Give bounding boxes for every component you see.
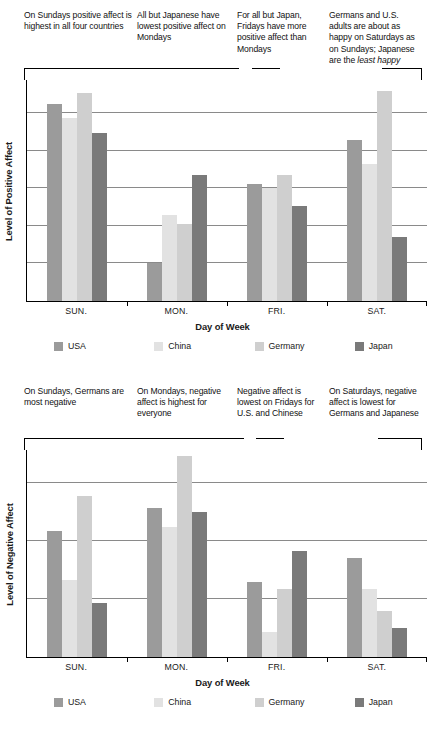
annotation-3: Negative affect is lowest on Fridays for…	[237, 386, 329, 438]
annotation-1: On Sundays, Germans are most negative	[24, 386, 137, 438]
legend-label: China	[168, 697, 191, 707]
leader-line-2	[139, 68, 239, 69]
x-tick-labels-positive: SUN. MON. FRI. SAT.	[26, 306, 427, 316]
bar-group-sat	[327, 450, 427, 657]
legend-label: Japan	[369, 697, 393, 707]
legend-label: Germany	[269, 341, 305, 351]
annotation-1: On Sundays positive affect is highest in…	[24, 10, 137, 68]
legend-label: Germany	[269, 697, 305, 707]
legend-negative: USA China Germany Japan	[26, 697, 427, 707]
legend-positive: USA China Germany Japan	[26, 341, 427, 351]
bar-group-mon	[127, 80, 227, 301]
bar-group-sun	[27, 450, 127, 657]
legend-item-germany: Germany	[227, 341, 327, 351]
positive-affect-figure: On Sundays positive affect is highest in…	[0, 0, 445, 360]
leader-line-2	[139, 438, 244, 439]
x-tick-label: SAT.	[327, 662, 427, 672]
bar-china	[362, 589, 377, 657]
bar-japan	[92, 603, 107, 657]
x-tick-label: FRI.	[227, 306, 327, 316]
bar-usa	[47, 531, 62, 657]
leader-line-1	[24, 68, 139, 69]
leader-line-4-drop	[421, 68, 422, 80]
legend-item-china: China	[126, 341, 226, 351]
bar-group-sat	[327, 80, 427, 301]
bar-usa	[247, 184, 262, 301]
bar-china	[162, 527, 177, 657]
bar-germany	[377, 611, 392, 657]
positive-affect-plot: Level of Positive Affect	[0, 80, 445, 302]
leader-line-1-drop	[24, 68, 25, 80]
legend-label: USA	[68, 341, 86, 351]
bar-china	[162, 215, 177, 301]
y-axis-label-positive: Level of Positive Affect	[0, 80, 18, 302]
bar-japan	[392, 628, 407, 657]
bar-china	[62, 118, 77, 301]
legend-swatch-china	[154, 342, 163, 351]
x-tick-label: MON.	[126, 662, 226, 672]
figure-page: On Sundays positive affect is highest in…	[0, 0, 445, 731]
legend-swatch-germany	[255, 698, 264, 707]
x-tick-label: SUN.	[26, 662, 126, 672]
legend-label: Japan	[369, 341, 393, 351]
bar-usa	[147, 263, 162, 301]
legend-item-germany: Germany	[227, 697, 327, 707]
legend-item-japan: Japan	[327, 341, 427, 351]
bar-germany	[177, 456, 192, 657]
bar-groups-negative	[27, 450, 427, 657]
bar-germany	[177, 224, 192, 301]
annotation-3: For all but Japan, Fridays have more pos…	[237, 10, 329, 68]
legend-item-usa: USA	[26, 341, 126, 351]
annotation-4-italic: least happy	[357, 55, 400, 65]
plot-axes-negative	[26, 450, 427, 658]
bar-germany	[277, 589, 292, 657]
legend-item-china: China	[126, 697, 226, 707]
legend-item-usa: USA	[26, 697, 126, 707]
bar-group-mon	[127, 450, 227, 657]
bar-china	[62, 580, 77, 657]
legend-swatch-china	[154, 698, 163, 707]
annotation-4: On Saturdays, negative affect is lowest …	[329, 386, 427, 438]
x-tick-label: SAT.	[327, 306, 427, 316]
x-tick-label: SUN.	[26, 306, 126, 316]
legend-label: China	[168, 341, 191, 351]
legend-swatch-germany	[255, 342, 264, 351]
annotation-2: On Mondays, negative affect is highest f…	[137, 386, 237, 438]
bar-china	[362, 164, 377, 301]
bar-group-fri	[227, 450, 327, 657]
annotation-row-2: On Sundays, Germans are most negative On…	[0, 386, 445, 438]
legend-label: USA	[68, 697, 86, 707]
x-tick-label: FRI.	[227, 662, 327, 672]
bar-germany	[377, 91, 392, 301]
leader-line-1	[24, 438, 139, 439]
x-axis-label-negative: Day of Week	[0, 677, 445, 688]
bar-japan	[192, 512, 207, 657]
bar-group-sun	[27, 80, 127, 301]
annotation-row-1: On Sundays positive affect is highest in…	[0, 10, 445, 68]
annotation-2: All but Japanese have lowest positive af…	[137, 10, 237, 68]
bar-china	[262, 632, 277, 657]
bar-japan	[292, 206, 307, 301]
x-tick-labels-negative: SUN. MON. FRI. SAT.	[26, 662, 427, 672]
negative-affect-figure: On Sundays, Germans are most negative On…	[0, 378, 445, 731]
bar-group-fri	[227, 80, 327, 301]
plot-axes-positive	[26, 80, 427, 302]
leader-line-3	[252, 68, 280, 69]
bar-usa	[47, 104, 62, 301]
leader-line-1-drop	[24, 438, 25, 450]
leader-line-3	[256, 438, 284, 439]
x-axis-label-positive: Day of Week	[0, 321, 445, 332]
legend-swatch-japan	[355, 342, 364, 351]
bar-germany	[77, 93, 92, 301]
bar-germany	[277, 175, 292, 301]
annotation-4: Germans and U.S. adults are about as hap…	[329, 10, 427, 68]
bar-usa	[347, 558, 362, 657]
bar-china	[262, 188, 277, 301]
y-axis-label-negative: Level of Negative Affect	[0, 450, 18, 658]
negative-affect-plot: Level of Negative Affect	[0, 450, 445, 658]
leader-line-4	[378, 438, 422, 439]
legend-item-japan: Japan	[327, 697, 427, 707]
leader-line-4	[382, 68, 422, 69]
bar-usa	[347, 140, 362, 301]
bar-usa	[247, 582, 262, 657]
